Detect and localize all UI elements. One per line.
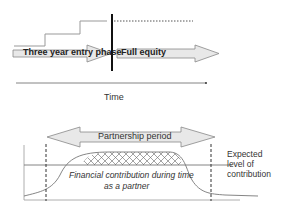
full-equity-label: Full equity	[121, 47, 166, 57]
expected-label-line2: level of	[227, 159, 254, 169]
time-axis	[16, 82, 207, 84]
expected-label-line3: contribution	[227, 169, 271, 179]
equity-staircase	[14, 21, 193, 46]
curve-label-line1: Financial contribution during time	[69, 170, 194, 180]
time-axis-label: Time	[104, 92, 124, 102]
partnership-period-label: Partnership period	[98, 131, 172, 141]
expected-label-line1: Expected	[227, 149, 262, 159]
hatched-surplus-area	[82, 152, 182, 165]
entry-phase-label: Three year entry phase	[23, 47, 122, 57]
curve-label-line2: as a partner	[104, 181, 149, 191]
